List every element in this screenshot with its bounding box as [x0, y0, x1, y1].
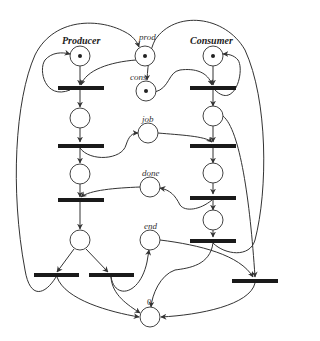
place-working[interactable] [203, 163, 223, 183]
transition-receive-done[interactable] [58, 198, 104, 202]
arc-t5-to-end [111, 250, 149, 291]
token-icon [143, 54, 147, 58]
label-prod: prod [139, 33, 156, 42]
label-zero: 0 [147, 298, 152, 307]
transition-terminate[interactable] [232, 279, 278, 283]
transition-consume-start[interactable] [190, 86, 236, 90]
arc-job-to-c3 [158, 133, 212, 142]
arc-done-to-t3 [81, 187, 140, 197]
label-cons: cons [130, 73, 147, 82]
label-job: job [142, 115, 154, 124]
token-icon [211, 54, 215, 58]
place-end[interactable] [140, 230, 160, 250]
arc-p3-to-t5 [86, 249, 108, 272]
token-icon [78, 54, 82, 58]
token-icon [144, 89, 148, 93]
label-producer: Producer [62, 36, 100, 46]
transition-produce-start[interactable] [58, 86, 104, 90]
label-consumer: Consumer [190, 36, 233, 46]
place-received[interactable] [203, 106, 223, 126]
transition-take-job[interactable] [190, 144, 236, 148]
label-end: end [144, 222, 157, 231]
place-job[interactable] [138, 123, 158, 143]
place-zero[interactable] [140, 307, 160, 327]
place-sent[interactable] [70, 164, 90, 184]
place-finished[interactable] [203, 210, 223, 230]
transition-send-job[interactable] [58, 144, 104, 148]
arc-t5-to-zero [111, 277, 140, 313]
arc-p3-to-t4 [57, 249, 74, 272]
place-produced[interactable] [70, 108, 90, 128]
transition-report-done[interactable] [190, 196, 236, 200]
place-done[interactable] [140, 177, 160, 197]
label-done: done [142, 169, 160, 178]
transition-producer-end[interactable] [89, 273, 134, 277]
arc-prod-to-t1 [81, 60, 136, 85]
transition-producer-restart[interactable] [34, 273, 79, 277]
transition-consumer-finish[interactable] [190, 239, 236, 243]
arc-t4-to-zero [57, 277, 139, 317]
arc-c7-to-zero [151, 243, 213, 307]
place-choice[interactable] [70, 230, 90, 250]
arc-right-t-to-zero [161, 283, 255, 317]
